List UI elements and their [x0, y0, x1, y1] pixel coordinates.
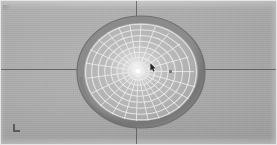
- app-root: [0, 0, 277, 145]
- viewport-canvas[interactable]: [0, 0, 277, 145]
- corner-artifact-bottom-left: [13, 124, 20, 132]
- dome-apex-core: [136, 69, 141, 73]
- dome-wireframe-svg: [74, 15, 208, 129]
- scene-point-marker: [169, 70, 172, 73]
- dome-mesh[interactable]: [74, 15, 208, 129]
- corner-artifact-top-left: [3, 5, 10, 10]
